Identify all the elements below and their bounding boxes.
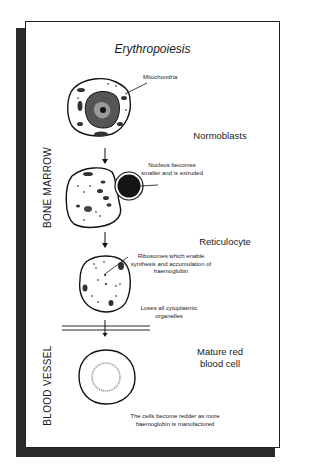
annotation-redder: The cells become redder as more haemoglo… [125,413,225,428]
normoblast-extruding-cell [66,168,143,227]
vessel-wall [62,320,150,337]
mature-red-blood-cell [79,350,135,404]
region-label-blood-vessel: BLOOD VESSEL [42,336,53,436]
annotation-ribosomes: Ribosomes which enable synthesis and acc… [126,253,216,276]
normoblast-cell [68,79,131,137]
mitochondria-pointer [125,83,147,94]
annotation-organelles: Loses all cytoplasmic organelles [128,305,210,320]
arrow-down-icon [102,148,108,164]
stage-reticulocyte: Reticulocyte [185,236,265,248]
stage-mature-red-blood-cell: Mature red blood cell [190,346,250,370]
region-label-bone-marrow: BONE MARROW [42,138,53,238]
annotation-mitochondria: Mitochondria [143,74,203,82]
annotation-nucleus: Nucleus becomes smaller and is extruded [138,162,206,177]
stage-normoblasts: Normoblasts [180,130,260,142]
arrow-down-icon [102,232,108,248]
reticulocyte-cell [80,256,131,312]
